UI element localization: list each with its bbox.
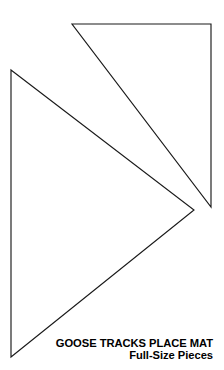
pattern-subtitle: Full-Size Pieces — [56, 349, 213, 361]
pattern-diagram — [0, 0, 224, 370]
pattern-sheet: GOOSE TRACKS PLACE MAT Full-Size Pieces — [0, 0, 224, 370]
pattern-title: GOOSE TRACKS PLACE MAT — [56, 337, 213, 349]
caption: GOOSE TRACKS PLACE MAT Full-Size Pieces — [56, 337, 213, 361]
